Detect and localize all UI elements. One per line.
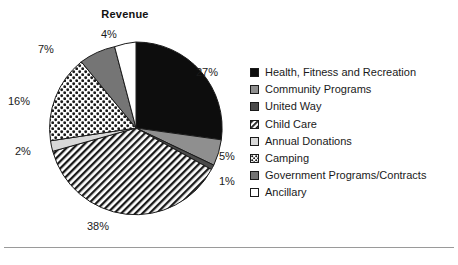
- legend-item-child-care[interactable]: Child Care: [250, 116, 458, 133]
- legend-swatch-community-programs: [250, 85, 259, 94]
- slice-label-annual-donations: 2%: [15, 146, 31, 157]
- legend-item-government-programs-contracts[interactable]: Government Programs/Contracts: [250, 167, 458, 184]
- legend-item-health-fitness-and-recreation[interactable]: Health, Fitness and Recreation: [250, 64, 458, 81]
- chart-legend: Health, Fitness and Recreation Community…: [250, 64, 458, 202]
- legend-label-united-way: United Way: [265, 101, 321, 112]
- slice-label-health-fitness-and-recreation: 27%: [196, 67, 218, 78]
- slice-label-ancillary: 4%: [101, 29, 117, 40]
- legend-label-community-programs: Community Programs: [265, 84, 371, 95]
- slice-label-government-programs-contracts: 7%: [38, 44, 54, 55]
- pie-slice-health-fitness-and-recreation[interactable]: [136, 42, 222, 140]
- legend-swatch-annual-donations: [250, 137, 259, 146]
- legend-swatch-child-care: [250, 120, 259, 129]
- pie-chart-plot-area: 27% 5% 1% 38% 2% 16% 7% 4%: [0, 22, 250, 232]
- legend-label-ancillary: Ancillary: [265, 187, 307, 198]
- legend-item-annual-donations[interactable]: Annual Donations: [250, 133, 458, 150]
- legend-swatch-government-programs-contracts: [250, 171, 259, 180]
- legend-label-child-care: Child Care: [265, 119, 317, 130]
- bottom-divider: [4, 247, 454, 248]
- slice-label-community-programs: 5%: [219, 151, 235, 162]
- legend-label-government-programs-contracts: Government Programs/Contracts: [265, 170, 426, 181]
- legend-label-health-fitness-and-recreation: Health, Fitness and Recreation: [265, 67, 416, 78]
- legend-item-ancillary[interactable]: Ancillary: [250, 184, 458, 201]
- legend-item-camping[interactable]: Camping: [250, 150, 458, 167]
- legend-swatch-health-fitness-and-recreation: [250, 68, 259, 77]
- chart-title: Revenue: [0, 8, 250, 20]
- legend-label-camping: Camping: [265, 153, 309, 164]
- legend-item-community-programs[interactable]: Community Programs: [250, 81, 458, 98]
- slice-label-united-way: 1%: [219, 176, 235, 187]
- legend-item-united-way[interactable]: United Way: [250, 98, 458, 115]
- slice-label-camping: 16%: [8, 96, 30, 107]
- legend-swatch-united-way: [250, 102, 259, 111]
- legend-label-annual-donations: Annual Donations: [265, 136, 352, 147]
- legend-swatch-camping: [250, 154, 259, 163]
- slice-label-child-care: 38%: [87, 221, 109, 232]
- legend-swatch-ancillary: [250, 188, 259, 197]
- revenue-pie-chart-figure: Revenue: [0, 0, 458, 265]
